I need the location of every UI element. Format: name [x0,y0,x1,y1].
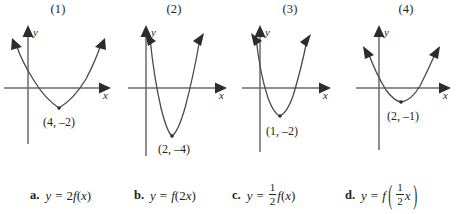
answer-d-tag: d. [345,189,355,202]
answer-d-equation: y = f ( 1 2 x ) [361,182,420,208]
graph-panel-4: (4) x y (2, –1) [348,0,464,172]
vertex-label-3: (1, –2) [266,124,298,138]
answer-b-equals: = [160,189,167,202]
answer-d-fraction: 1 2 [396,182,404,208]
left-branch-arrowhead-icon-1 [11,38,22,50]
answer-d-frac-numerator: 1 [396,182,404,193]
y-axis-arrowhead-icon-4 [374,25,385,37]
parabola-graph-3: x y (1, –2) [232,16,348,172]
answer-a-lhs: y [45,189,51,202]
parabola-curve-4 [368,52,436,102]
graph-panel-row: (1) x [0,0,464,172]
answer-b-close-paren: ) [191,189,195,202]
answer-c-equation: y = 1 2 f ( x ) [247,182,296,208]
answer-d-arg: x [405,189,411,202]
parabola-graph-1: x y (4, –2) [0,16,116,172]
right-branch-arrowhead-icon-3 [300,34,311,47]
x-axis-label-1: x [102,89,108,101]
answer-choice-a[interactable]: a. y = 2 f ( x ) [30,176,91,214]
panel-2-plot: x y (2, –4) [116,16,232,172]
graph-panel-2: (2) x y (2, –4) [116,0,232,172]
answer-d-frac-denominator: 2 [396,196,404,207]
answer-c-lhs: y [247,189,253,202]
answer-choice-b[interactable]: b. y = f ( 2 x ) [134,176,196,214]
parabola-curve-2 [150,38,200,136]
vertex-dot-3 [278,114,282,118]
answer-d-open-paren: ( [389,181,393,209]
answer-b-equation: y = f ( 2 x ) [150,189,196,202]
answer-c-fraction: 1 2 [269,182,277,208]
vertex-label-4: (2, –1) [387,109,419,123]
answer-a-tag: a. [30,189,39,202]
left-branch-arrowhead-icon-4 [363,46,374,59]
vertex-dot-1 [57,106,61,110]
answer-choice-row: a. y = 2 f ( x ) b. y = f ( 2 x ) [0,176,464,214]
answer-c-tag: c. [232,189,241,202]
panel-3-plot: x y (1, –2) [232,16,348,172]
vertex-dot-4 [399,100,403,104]
parabola-graph-4: x y (2, –1) [348,16,464,172]
y-axis-label-2: y [150,26,156,38]
vertex-label-2: (2, –4) [158,142,190,156]
answer-d-close-paren: ) [413,181,417,209]
answer-d-fn: f [382,189,386,202]
answer-choice-c[interactable]: c. y = 1 2 f ( x ) [232,176,295,214]
answer-b-tag: b. [134,189,144,202]
panel-2-label: (2) [116,2,232,17]
answer-a-equals: = [55,189,62,202]
vertex-label-1: (4, –2) [43,115,75,129]
answer-b-lhs: y [150,189,156,202]
right-branch-arrowhead-icon-2 [193,33,204,46]
graph-panel-3: (3) x y (1, –2) [232,0,348,172]
panel-1-plot: x y (4, –2) [0,16,116,172]
right-branch-arrowhead-icon-4 [429,46,440,59]
parabola-graph-2: x y (2, –4) [116,16,232,172]
panel-3-label: (3) [232,2,348,17]
answer-d-equals: = [371,189,378,202]
x-axis-label-4: x [442,89,448,101]
answer-a-close-paren: ) [87,189,91,202]
parabola-curve-3 [256,38,307,116]
right-branch-arrowhead-icon-1 [95,38,106,50]
x-axis-label-3: x [322,89,328,101]
panel-1-label: (1) [0,2,116,17]
y-axis-label-1: y [32,26,38,38]
panel-4-label: (4) [348,2,464,17]
answer-choice-d[interactable]: d. y = f ( 1 2 x ) [345,176,420,214]
answer-c-frac-denominator: 2 [269,196,277,207]
y-axis-label-3: y [264,26,270,38]
figure-page: (1) x [0,0,464,214]
answer-c-close-paren: ) [291,189,295,202]
panel-4-plot: x y (2, –1) [348,16,464,172]
x-axis-label-2: x [218,89,224,101]
y-axis-arrowhead-icon-1 [23,25,34,37]
answer-d-lhs: y [361,189,367,202]
answer-c-equals: = [256,189,263,202]
answer-a-equation: y = 2 f ( x ) [45,189,91,202]
answer-c-frac-numerator: 1 [269,182,277,193]
y-axis-arrowhead-icon-3 [255,25,266,37]
graph-panel-1: (1) x [0,0,116,172]
y-axis-label-4: y [383,26,389,38]
vertex-dot-2 [170,134,174,138]
